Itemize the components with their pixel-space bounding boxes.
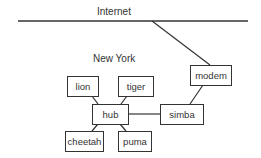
node-hub: hub (92, 104, 129, 125)
node-puma: puma (118, 131, 152, 152)
node-modem: modem (190, 65, 232, 86)
node-puma-label: puma (123, 136, 147, 147)
node-tiger-label: tiger (127, 81, 145, 92)
node-cheetah-label: cheetah (68, 136, 102, 147)
node-tiger: tiger (118, 76, 154, 97)
lion-to-hub-link (92, 96, 98, 104)
node-hub-label: hub (103, 109, 119, 120)
node-lion: lion (67, 76, 99, 97)
node-cheetah: cheetah (65, 131, 104, 152)
location-label: New York (93, 53, 135, 64)
node-simba-label: simba (169, 109, 194, 120)
hub-to-puma-link (120, 124, 126, 131)
node-modem-label: modem (195, 70, 227, 81)
node-simba: simba (160, 104, 204, 125)
node-lion-label: lion (76, 81, 91, 92)
internet-label: Internet (97, 6, 131, 17)
tiger-to-hub-link (121, 96, 127, 104)
modem-to-simba-link (190, 85, 203, 104)
hub-to-cheetah-link (92, 124, 98, 131)
internet-to-modem-link (152, 21, 210, 65)
